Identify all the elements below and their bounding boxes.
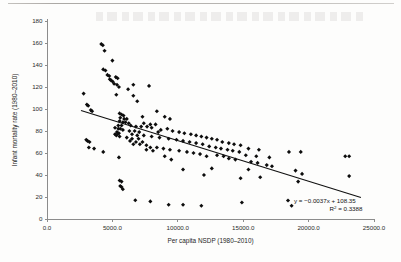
y-tick-label: 80 xyxy=(36,127,43,134)
y-tick-label: 140 xyxy=(32,61,43,68)
y-tick-label: 160 xyxy=(32,39,43,46)
y-tick-label: 180 xyxy=(32,17,43,24)
x-tick-label: 0.0 xyxy=(43,224,52,231)
x-tick-label: 20000.0 xyxy=(297,224,320,231)
x-tick-label: 15000.0 xyxy=(232,224,255,231)
x-tick-label: 5000.0 xyxy=(103,224,122,231)
y-axis-title: Infant mortality rate (1980–2010) xyxy=(11,74,19,167)
y-tick-label: 100 xyxy=(32,105,43,112)
y-tick-label: 40 xyxy=(36,171,43,178)
y-tick-label: 20 xyxy=(36,193,43,200)
y-tick-label: 60 xyxy=(36,149,43,156)
r-squared-label: R2 = 0.3388 xyxy=(330,205,363,212)
x-tick-label: 25000.0 xyxy=(363,224,386,231)
y-tick-label: 0 xyxy=(39,215,43,222)
x-tick-label: 10000.0 xyxy=(167,224,190,231)
axis-labels-group: 0204060801001201401601800.05000.010000.0… xyxy=(11,17,386,245)
chart-labels-svg: 0204060801001201401601800.05000.010000.0… xyxy=(0,0,401,262)
scatter-plot: 0204060801001201401601800.05000.010000.0… xyxy=(0,0,401,262)
trendline-equation: y = −0.0037x + 108.35 xyxy=(294,197,356,204)
figure-panel: 0204060801001201401601800.05000.010000.0… xyxy=(0,0,401,262)
x-axis-title: Per capita NSDP (1980–2010) xyxy=(167,237,253,245)
y-tick-label: 120 xyxy=(32,83,43,90)
